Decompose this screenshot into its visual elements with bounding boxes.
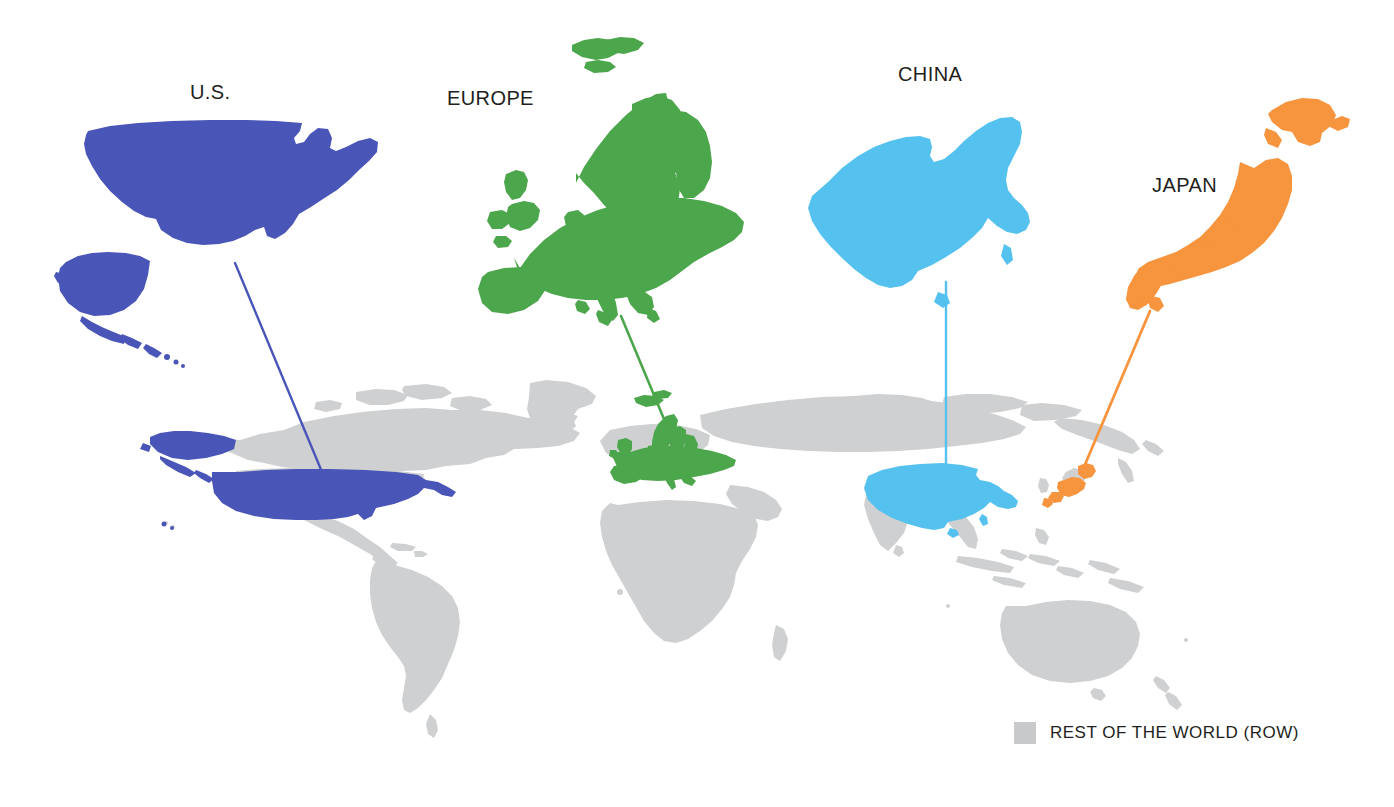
region-label-china: CHINA	[898, 64, 962, 84]
inset-map-japan	[1126, 98, 1350, 312]
map-canvas	[0, 0, 1394, 807]
legend: REST OF THE WORLD (ROW)	[1014, 722, 1299, 744]
connector-japan	[1081, 311, 1150, 474]
legend-swatch-rest-of-world	[1014, 722, 1036, 744]
connector-europe	[621, 316, 669, 431]
world-highlight-europe	[609, 390, 736, 490]
inset-map-china	[808, 117, 1030, 308]
inset-map-us	[54, 120, 378, 368]
region-label-us: U.S.	[190, 82, 231, 102]
region-label-japan: JAPAN	[1152, 175, 1217, 195]
inset-map-europe	[478, 37, 744, 326]
legend-label-rest-of-world: REST OF THE WORLD (ROW)	[1050, 723, 1299, 743]
world-map-figure: U.S. EUROPE CHINA JAPAN REST OF THE WORL…	[0, 0, 1394, 807]
region-label-europe: EUROPE	[447, 88, 534, 108]
world-highlight-japan	[1042, 463, 1096, 508]
